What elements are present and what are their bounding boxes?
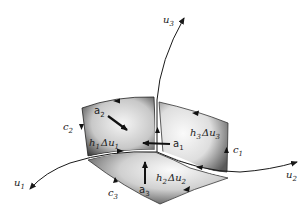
- a1-vector-icon: [143, 143, 170, 144]
- c3-label: c3: [108, 187, 119, 201]
- c2-label: c2: [63, 121, 74, 135]
- c2-left-arrow-icon: [79, 124, 84, 130]
- curvilinear-coordinates-diagram: u3 u1 u2 c1 c2 c3 a1 a2 a3 h1Δu1 h2Δu2 h…: [0, 0, 307, 217]
- u1-label: u1: [14, 177, 25, 191]
- u3-label: u3: [163, 14, 174, 28]
- u2-label: u2: [286, 169, 297, 183]
- c1-label: c1: [233, 144, 243, 158]
